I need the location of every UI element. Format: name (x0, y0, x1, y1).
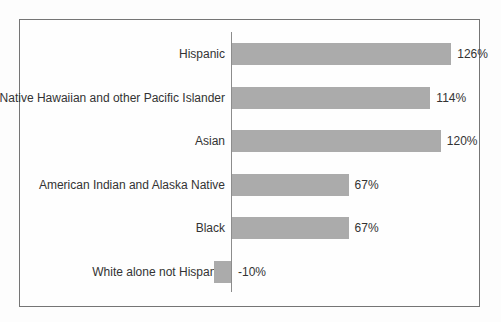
bar (232, 87, 430, 109)
category-label: American Indian and Alaska Native (39, 178, 225, 192)
category-label: Black (196, 221, 225, 235)
value-label: 114% (436, 91, 466, 105)
value-label: 126% (457, 47, 488, 61)
value-label: 120% (447, 134, 478, 148)
value-label: 67% (355, 178, 379, 192)
category-label: White alone not Hispanic (92, 265, 225, 279)
bar (232, 217, 349, 239)
chart-canvas: Hispanic 126% Native Hawaiian and other … (0, 0, 501, 322)
chart-frame: Hispanic 126% Native Hawaiian and other … (19, 19, 480, 307)
y-axis-baseline (231, 32, 232, 292)
bar (232, 174, 349, 196)
category-label: Native Hawaiian and other Pacific Island… (0, 91, 225, 105)
bar (214, 261, 231, 283)
bar (232, 130, 441, 152)
category-label: Hispanic (179, 47, 225, 61)
value-label: -10% (238, 265, 266, 279)
bar (232, 43, 451, 65)
category-label: Asian (195, 134, 225, 148)
value-label: 67% (355, 221, 379, 235)
